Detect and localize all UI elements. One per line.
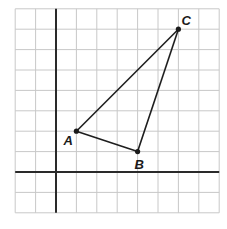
vertex-b-label: B	[135, 157, 144, 172]
vertex-b-dot	[135, 149, 140, 154]
grid-lines	[15, 9, 219, 213]
edge-ca	[76, 29, 178, 131]
edge-ab	[76, 131, 137, 151]
vertex-c-dot	[176, 27, 181, 32]
vertex-a-dot	[74, 129, 79, 134]
vertex-a-label: A	[62, 133, 72, 148]
coordinate-plane: A B C	[0, 0, 227, 229]
vertex-c-label: C	[181, 13, 191, 28]
